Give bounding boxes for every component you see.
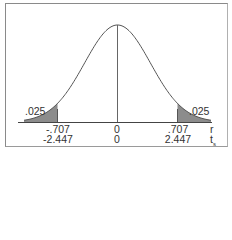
- left-tail-area-label: .025: [25, 106, 45, 117]
- t-center-tick: 0: [114, 134, 120, 145]
- right-tail-area-label: .025: [189, 106, 209, 117]
- t-right-tick: 2.447: [165, 134, 191, 145]
- t-left-tick: -2.447: [43, 134, 73, 145]
- t-axis-label: ts: [210, 134, 216, 150]
